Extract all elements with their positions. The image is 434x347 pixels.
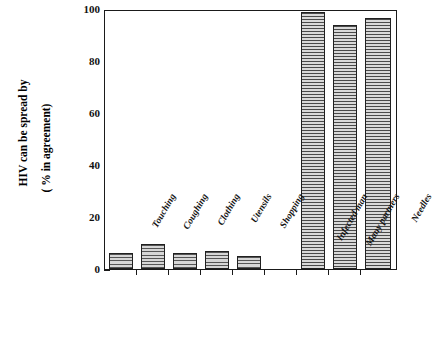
x-tick-1	[136, 270, 137, 275]
x-label-needles-text: Needles	[409, 191, 434, 223]
y-axis-title-line-1: HIV can be spread by	[17, 43, 33, 223]
x-tick-3	[200, 270, 201, 275]
x-tick-4	[232, 270, 233, 275]
x-tick-8	[360, 270, 361, 275]
y-tick-label-80-wrap: 80	[60, 55, 100, 69]
y-tick-label-40-wrap: 40	[60, 159, 100, 173]
y-axis-title: HIV can be spread by ( % in agreement)	[0, 0, 66, 280]
y-tick-label-100: 100	[64, 3, 100, 15]
y-tick-label-80: 80	[64, 55, 100, 67]
x-tick-2	[168, 270, 169, 275]
y-tick-label-0: 0	[64, 263, 100, 275]
y-tick-label-20: 20	[64, 211, 100, 223]
y-tick-label-60-wrap: 60	[60, 107, 100, 121]
y-tick-label-0-wrap: 0	[60, 263, 100, 277]
y-tick-label-60: 60	[64, 107, 100, 119]
y-tick-label-100-wrap: 100	[60, 3, 100, 17]
y-tick-major-0	[104, 270, 110, 271]
x-tick-6	[296, 270, 297, 275]
x-tick-5	[264, 270, 265, 275]
y-axis-title-line-2: ( % in agreement)	[40, 58, 56, 238]
y-tick-label-20-wrap: 20	[60, 211, 100, 225]
x-tick-7	[328, 270, 329, 275]
y-tick-label-40: 40	[64, 159, 100, 171]
